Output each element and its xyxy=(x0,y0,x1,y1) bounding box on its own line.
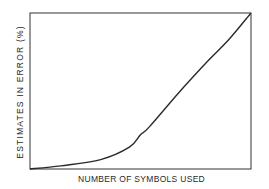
data-line xyxy=(30,13,251,169)
y-axis-label: ESTIMATES IN ERROR (%) xyxy=(15,25,25,158)
chart xyxy=(0,0,269,189)
x-axis-label: NUMBER OF SYMBOLS USED xyxy=(78,174,205,184)
plot-frame xyxy=(30,13,251,169)
